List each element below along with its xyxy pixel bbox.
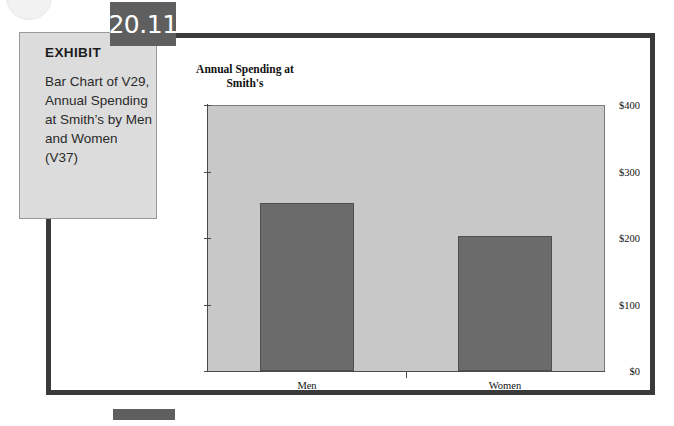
y-tick-mark bbox=[204, 238, 211, 239]
exhibit-description: Bar Chart of V29, Annual Spending at Smi… bbox=[45, 72, 153, 167]
y-tick-mark bbox=[204, 172, 211, 173]
y-tick-label: $400 bbox=[596, 100, 640, 111]
exhibit-number: 20.11 bbox=[108, 12, 177, 37]
bar-women bbox=[458, 236, 552, 371]
chart-title-line-1: Annual Spending at bbox=[196, 63, 294, 75]
y-tick-label: $0 bbox=[596, 366, 640, 377]
x-category-label: Women bbox=[489, 380, 521, 391]
bottom-swatch-decoration bbox=[113, 409, 175, 420]
x-tick-mark bbox=[406, 371, 407, 378]
x-category-label: Men bbox=[297, 380, 316, 391]
y-tick-label: $300 bbox=[596, 166, 640, 177]
exhibit-callout-box: EXHIBIT Bar Chart of V29, Annual Spendin… bbox=[19, 32, 157, 219]
chart-title: Annual Spending at Smith's bbox=[170, 62, 320, 90]
exhibit-label: EXHIBIT bbox=[45, 45, 101, 60]
corner-circle-decoration bbox=[6, 0, 52, 20]
y-tick-label: $100 bbox=[596, 299, 640, 310]
y-tick-mark bbox=[204, 305, 211, 306]
y-tick-mark bbox=[204, 105, 211, 106]
bar-chart: Annual Spending at Smith's $0$100$200$30… bbox=[160, 58, 640, 388]
bar-men bbox=[260, 203, 354, 371]
exhibit-number-tab: 20.11 bbox=[110, 2, 176, 46]
y-tick-mark bbox=[204, 371, 211, 372]
y-tick-label: $200 bbox=[596, 233, 640, 244]
chart-title-line-2: Smith's bbox=[226, 77, 263, 89]
